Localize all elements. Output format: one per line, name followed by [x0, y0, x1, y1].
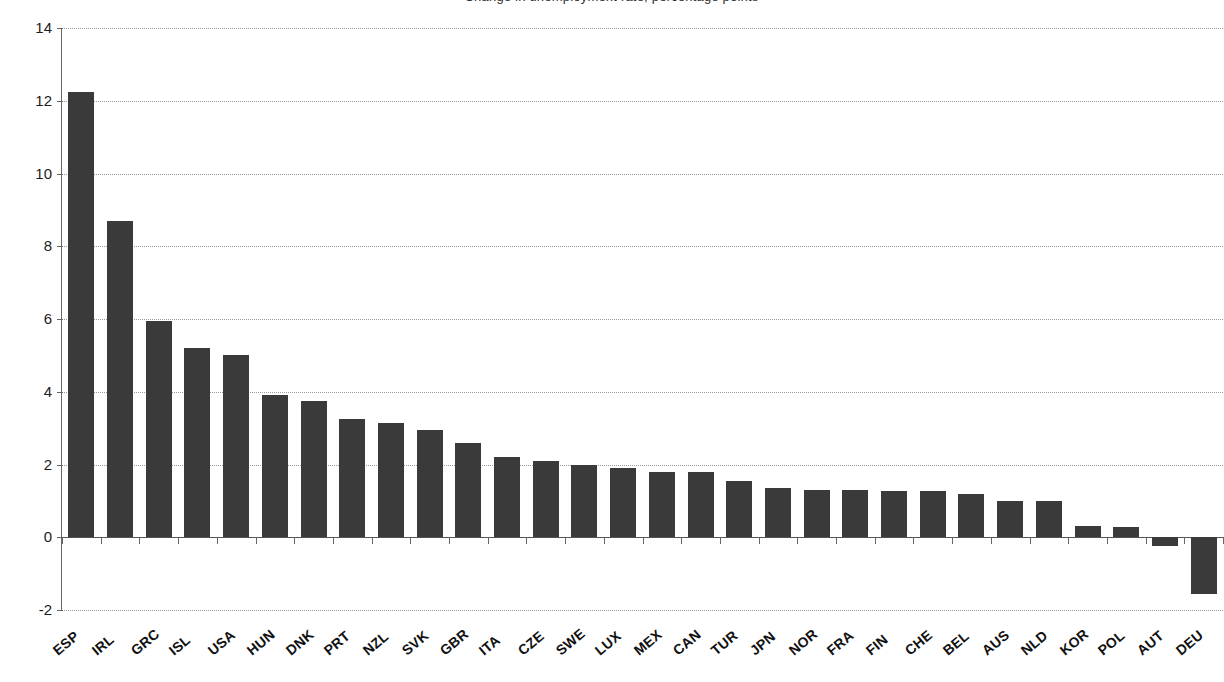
x-axis-category-label: PRT — [321, 628, 353, 659]
x-axis-tick — [797, 537, 798, 544]
bar — [68, 92, 94, 538]
x-axis-tick — [256, 537, 257, 544]
x-axis-labels: ESPIRLGRCISLUSAHUNDNKPRTNZLSVKGBRITACZES… — [62, 612, 1223, 682]
x-axis-category-label: SVK — [398, 627, 431, 658]
x-axis-tick — [62, 537, 63, 544]
bar — [378, 423, 404, 538]
x-axis-category-label: AUT — [1134, 627, 1167, 658]
x-axis-tick — [217, 537, 218, 544]
bar — [804, 490, 830, 537]
y-axis-tick — [57, 610, 63, 611]
x-axis-category-label: DEU — [1172, 627, 1206, 659]
bar-series — [62, 28, 1223, 610]
y-axis-tick-label: -2 — [6, 602, 52, 617]
x-axis-tick — [1146, 537, 1147, 544]
x-axis-category-label: DNK — [282, 626, 316, 658]
x-axis-tick — [333, 537, 334, 544]
x-axis-category-label: ISL — [166, 632, 194, 659]
bar — [107, 221, 133, 537]
x-axis-category-label: AUS — [979, 627, 1013, 659]
bar — [1152, 537, 1178, 546]
x-axis-tick — [1107, 537, 1108, 544]
bar — [765, 488, 791, 537]
x-axis-category-label: LUX — [592, 628, 624, 659]
x-axis-tick — [1068, 537, 1069, 544]
x-axis-tick — [1184, 537, 1185, 544]
x-axis-category-label: IRL — [89, 631, 117, 658]
x-axis-tick — [759, 537, 760, 544]
x-axis-category-label: TUR — [708, 627, 741, 658]
y-axis-tick-label: 2 — [6, 457, 52, 472]
bar — [997, 501, 1023, 537]
x-axis-category-label: KOR — [1056, 626, 1091, 659]
x-axis-category-label: CAN — [669, 626, 703, 658]
y-axis-tick-label: 14 — [6, 20, 52, 35]
x-axis-category-label: GRC — [127, 626, 162, 659]
x-axis-category-label: NLD — [1017, 627, 1050, 658]
x-axis-category-label: NZL — [360, 628, 392, 658]
x-axis-tick — [681, 537, 682, 544]
bar — [610, 468, 636, 537]
x-axis-tick — [178, 537, 179, 544]
bar — [1036, 501, 1062, 537]
gridline — [62, 610, 1223, 611]
x-axis-tick — [1030, 537, 1031, 544]
bar — [1075, 526, 1101, 537]
chart-title: Change in unemployment rate, percentage … — [0, 0, 1223, 4]
bar — [571, 465, 597, 538]
bar — [533, 461, 559, 537]
x-axis-tick — [836, 537, 837, 544]
bar — [146, 321, 172, 537]
x-axis-tick — [410, 537, 411, 544]
x-axis-category-label: SWE — [553, 625, 588, 658]
x-axis-tick — [139, 537, 140, 544]
x-axis-tick — [643, 537, 644, 544]
x-axis-tick — [294, 537, 295, 544]
y-axis-tick-label: 8 — [6, 238, 52, 253]
bar — [1191, 537, 1217, 593]
y-axis-tick-label: 4 — [6, 384, 52, 399]
x-axis-category-label: FIN — [863, 631, 891, 658]
x-axis-category-label: USA — [205, 627, 239, 659]
bar — [688, 472, 714, 537]
bar — [417, 430, 443, 537]
bar — [455, 443, 481, 538]
bar — [649, 472, 675, 537]
x-axis-category-label: JPN — [747, 628, 779, 658]
bar — [262, 395, 288, 537]
y-axis-tick-label: 12 — [6, 93, 52, 108]
bar — [958, 494, 984, 538]
x-axis-tick — [449, 537, 450, 544]
x-axis-category-label: ESP — [50, 628, 82, 659]
bar — [223, 355, 249, 537]
bar — [184, 348, 210, 537]
x-axis-category-label: HUN — [243, 626, 277, 658]
x-axis-category-label: CZE — [514, 628, 546, 659]
x-axis-tick — [991, 537, 992, 544]
bar — [726, 481, 752, 537]
x-axis-category-label: MEX — [630, 626, 664, 658]
x-axis-tick — [372, 537, 373, 544]
x-axis-category-label: BEL — [940, 628, 972, 659]
x-axis-tick — [101, 537, 102, 544]
bar — [842, 490, 868, 537]
bar — [1113, 527, 1139, 537]
x-axis-category-label: POL — [1095, 627, 1128, 658]
x-axis-category-label: ITA — [476, 632, 503, 659]
x-axis-tick — [604, 537, 605, 544]
y-axis-tick-label: 10 — [6, 166, 52, 181]
x-axis-category-label: GBR — [437, 626, 472, 659]
x-axis-tick — [565, 537, 566, 544]
y-axis-tick-label: 6 — [6, 311, 52, 326]
x-axis-category-label: NOR — [785, 626, 820, 659]
x-axis-tick — [488, 537, 489, 544]
y-axis-tick-label: 0 — [6, 529, 52, 544]
x-axis-tick — [952, 537, 953, 544]
bar — [881, 491, 907, 537]
x-axis-tick — [720, 537, 721, 544]
bar — [920, 491, 946, 537]
x-axis-tick — [913, 537, 914, 544]
bar — [494, 457, 520, 537]
x-axis-category-label: FRA — [824, 627, 857, 658]
